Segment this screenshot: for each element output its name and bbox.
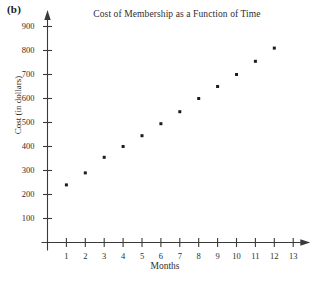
x-tick-label: 9: [210, 252, 226, 261]
y-tick-label: 100: [7, 214, 35, 223]
figure-container: (b) Cost of Membership as a Function of …: [0, 0, 321, 281]
y-tick-label: 200: [7, 190, 35, 199]
data-point: [273, 47, 276, 50]
data-point: [216, 85, 219, 88]
data-point: [103, 156, 106, 159]
y-tick-label: 800: [7, 46, 35, 55]
data-point: [178, 110, 181, 113]
x-axis-arrow-icon: [300, 239, 310, 245]
y-tick-label: 900: [7, 22, 35, 31]
data-points: [65, 47, 276, 187]
tick-marks: [43, 27, 293, 248]
axes: [42, 10, 311, 250]
x-tick-label: 11: [247, 252, 263, 261]
x-tick-label: 4: [115, 252, 131, 261]
y-tick-label: 600: [7, 94, 35, 103]
x-tick-label: 13: [285, 252, 301, 261]
data-point: [122, 145, 125, 148]
data-point: [159, 122, 162, 125]
x-tick-label: 3: [96, 252, 112, 261]
x-tick-label: 7: [172, 252, 188, 261]
y-tick-label: 500: [7, 118, 35, 127]
data-point: [254, 60, 257, 63]
x-tick-label: 6: [153, 252, 169, 261]
y-tick-label: 700: [7, 70, 35, 79]
x-tick-label: 5: [134, 252, 150, 261]
data-point: [65, 183, 68, 186]
data-point: [84, 171, 87, 174]
y-tick-label: 400: [7, 142, 35, 151]
y-axis-arrow-icon: [44, 10, 50, 20]
x-tick-label: 8: [191, 252, 207, 261]
data-point: [235, 73, 238, 76]
data-point: [197, 97, 200, 100]
x-tick-label: 1: [58, 252, 74, 261]
x-tick-label: 12: [266, 252, 282, 261]
y-tick-label: 300: [7, 166, 35, 175]
plot-area: [0, 0, 321, 281]
x-tick-label: 10: [229, 252, 245, 261]
x-tick-label: 2: [77, 252, 93, 261]
data-point: [141, 134, 144, 137]
